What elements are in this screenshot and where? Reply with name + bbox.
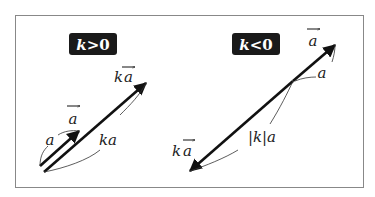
vector-ka-label: k a bbox=[172, 140, 195, 160]
svg-text:a: a bbox=[183, 142, 192, 160]
svg-text:a: a bbox=[69, 110, 78, 128]
svg-text:k: k bbox=[114, 68, 123, 86]
length-ka-label: ka bbox=[99, 131, 117, 149]
vector-ka-label: k a bbox=[114, 67, 135, 86]
svg-text:k<0: k<0 bbox=[239, 36, 272, 54]
badge-k: k bbox=[76, 36, 86, 54]
scalar-multiplication-diagram: k>0 a k a a ka k<0 bbox=[0, 0, 375, 197]
length-a-label: a bbox=[318, 64, 327, 82]
badge-k-negative: k<0 bbox=[232, 33, 280, 55]
badge-relation: >0 bbox=[87, 36, 110, 54]
svg-text:a: a bbox=[309, 32, 318, 50]
svg-text:a: a bbox=[124, 68, 133, 86]
badge-k-positive: k>0 bbox=[69, 33, 117, 55]
length-abs-ka-label: |k|a bbox=[248, 128, 276, 146]
badge-k: k bbox=[239, 36, 249, 54]
svg-text:k>0: k>0 bbox=[76, 36, 109, 54]
length-a-label: a bbox=[46, 131, 55, 149]
svg-text:k: k bbox=[172, 142, 181, 160]
badge-relation: <0 bbox=[250, 36, 273, 54]
